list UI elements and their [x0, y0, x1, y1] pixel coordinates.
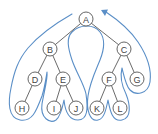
node-H: H — [15, 101, 29, 115]
node-label-I: I — [53, 104, 56, 114]
node-label-H: H — [19, 104, 26, 114]
node-label-G: G — [133, 75, 140, 85]
node-E: E — [56, 72, 70, 86]
node-L: L — [113, 101, 127, 115]
node-label-L: L — [117, 104, 122, 114]
node-label-C: C — [121, 45, 128, 55]
node-J: J — [69, 101, 83, 115]
node-label-E: E — [60, 75, 66, 85]
node-D: D — [28, 72, 42, 86]
tree-edges — [22, 19, 137, 108]
node-C: C — [117, 42, 131, 56]
node-label-B: B — [47, 45, 53, 55]
node-F: F — [102, 72, 116, 86]
tree-diagram: A B C D E F G H I J K L — [0, 0, 158, 134]
node-label-A: A — [83, 15, 89, 25]
node-label-D: D — [32, 75, 39, 85]
node-label-J: J — [74, 104, 79, 114]
node-G: G — [130, 72, 144, 86]
node-label-K: K — [94, 104, 100, 114]
node-label-F: F — [106, 75, 112, 85]
node-I: I — [47, 101, 61, 115]
node-K: K — [90, 101, 104, 115]
node-B: B — [43, 42, 57, 56]
node-A: A — [79, 12, 93, 26]
